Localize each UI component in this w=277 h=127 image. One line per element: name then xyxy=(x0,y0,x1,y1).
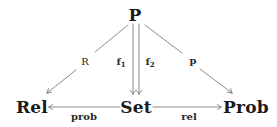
arrow-f2 xyxy=(137,24,142,94)
node-Prob: Prob xyxy=(223,99,269,116)
edge-label-R: R xyxy=(81,57,89,67)
commutative-diagram: P Rel Set Prob R f1 f2 p prob rel xyxy=(0,0,277,127)
node-P: P xyxy=(129,7,142,24)
edge-label-f1-sub: 1 xyxy=(121,60,126,69)
node-Set: Set xyxy=(120,99,152,116)
edge-label-prob: prob xyxy=(71,112,97,122)
edge-label-f1: f1 xyxy=(116,57,125,68)
arrow-f1 xyxy=(131,24,136,94)
edge-label-p: p xyxy=(190,56,197,66)
edge-label-rel: rel xyxy=(181,112,196,122)
arrow-rel xyxy=(153,105,221,110)
arrow-prob xyxy=(49,105,120,110)
node-Rel: Rel xyxy=(16,99,48,116)
edge-label-f2-sub: 2 xyxy=(150,60,155,69)
arrow-p xyxy=(145,25,232,93)
edge-label-f2: f2 xyxy=(145,57,154,68)
